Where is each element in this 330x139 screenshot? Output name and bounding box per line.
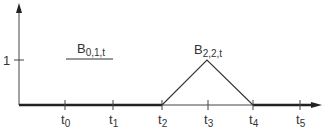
b22-label: B2,2,t	[194, 42, 222, 59]
bspline-diagram: 1 t0 t1 t2 t3 t4 t5 B0,1,t B2,2,t	[0, 0, 330, 139]
y-axis-arrow-icon	[16, 3, 22, 13]
x-tick-label-t2: t2	[158, 112, 168, 129]
x-tick-label-t3: t3	[204, 112, 214, 129]
x-tick-label-t4: t4	[249, 112, 259, 129]
y-tick-label-1: 1	[3, 53, 10, 68]
x-axis-arrow-icon	[311, 102, 322, 108]
x-tick-label-t5: t5	[296, 112, 306, 129]
x-tick-label-t0: t0	[61, 112, 71, 129]
b01-label: B0,1,t	[77, 41, 105, 58]
b22-curve	[162, 60, 253, 105]
x-tick-label-t1: t1	[109, 112, 119, 129]
